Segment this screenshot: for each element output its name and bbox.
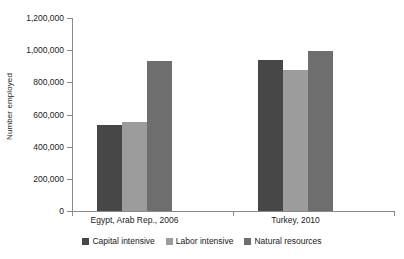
legend-swatch-icon xyxy=(82,238,89,245)
legend-label: Capital intensive xyxy=(92,236,154,246)
x-axis-tick-mark xyxy=(233,211,234,216)
legend-swatch-icon xyxy=(166,238,173,245)
y-tick-label: 0 xyxy=(59,206,64,216)
bar xyxy=(122,122,147,211)
bar xyxy=(283,70,308,211)
bar xyxy=(258,60,283,211)
y-tick-label: 1,000,000 xyxy=(26,45,64,55)
legend-item[interactable]: Natural resources xyxy=(244,236,321,246)
y-tick-label: 800,000 xyxy=(33,77,64,87)
category-label: Turkey, 2010 xyxy=(271,215,320,225)
y-tick-mark xyxy=(67,50,72,51)
y-tick-label: 600,000 xyxy=(33,110,64,120)
legend-item[interactable]: Labor intensive xyxy=(166,236,234,246)
bar xyxy=(147,61,172,211)
bar xyxy=(308,51,333,211)
x-axis-tick-mark xyxy=(72,211,73,216)
y-axis-title-text: Number employed xyxy=(5,73,14,140)
y-tick-label: 400,000 xyxy=(33,142,64,152)
legend-item[interactable]: Capital intensive xyxy=(82,236,154,246)
y-tick-label: 200,000 xyxy=(33,174,64,184)
y-tick-mark xyxy=(67,115,72,116)
plot-area: 0200,000400,000600,000800,0001,000,0001,… xyxy=(72,18,395,211)
y-axis-title: Number employed xyxy=(2,0,16,212)
bar-chart: Number employed 0200,000400,000600,00080… xyxy=(0,0,404,259)
category-label: Egypt, Arab Rep., 2006 xyxy=(91,215,179,225)
chart-legend: Capital intensiveLabor intensiveNatural … xyxy=(0,236,404,246)
y-tick-mark xyxy=(67,18,72,19)
legend-label: Labor intensive xyxy=(176,236,234,246)
y-tick-mark xyxy=(67,82,72,83)
y-tick-label: 1,200,000 xyxy=(26,13,64,23)
y-tick-mark xyxy=(67,147,72,148)
x-axis-tick-mark xyxy=(394,211,395,216)
y-axis-line xyxy=(72,18,73,211)
legend-swatch-icon xyxy=(244,238,251,245)
y-tick-mark xyxy=(67,179,72,180)
legend-label: Natural resources xyxy=(254,236,321,246)
bar xyxy=(97,125,122,211)
